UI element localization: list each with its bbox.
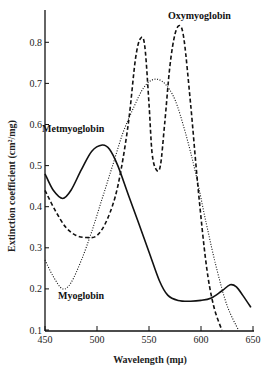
axes <box>45 10 254 331</box>
x-tick-label: 600 <box>194 334 209 345</box>
series-label-metmyoglobin: Metmyoglobin <box>42 123 105 134</box>
y-tick-label: 0.4 <box>30 201 43 212</box>
series-label-myoglobin: Myoglobin <box>58 290 105 301</box>
y-tick-label: 0.8 <box>30 37 43 48</box>
spectra-chart: 0.10.20.30.40.50.60.70.8 450500550600650… <box>0 0 269 372</box>
series-label-oxymyoglobin: Oxymyoglobin <box>168 10 231 21</box>
x-tick-label: 500 <box>90 334 105 345</box>
x-axis-title: Wavelength (mμ) <box>113 354 187 366</box>
x-tick-label: 450 <box>38 334 53 345</box>
x-tick-label: 650 <box>246 334 261 345</box>
series-labels: MetmyoglobinOxymyoglobinMyoglobin <box>42 10 231 301</box>
y-tick-label: 0.5 <box>30 160 43 171</box>
series-lines <box>45 26 251 330</box>
y-tick-label: 0.3 <box>30 242 43 253</box>
y-tick-label: 0.2 <box>30 283 43 294</box>
y-tick-label: 0.7 <box>30 78 43 89</box>
x-tick-label: 550 <box>142 334 157 345</box>
y-tick-label: 0.6 <box>30 119 43 130</box>
x-ticks: 450500550600650 <box>38 326 261 345</box>
y-ticks: 0.10.20.30.40.50.60.70.8 <box>30 37 50 336</box>
y-axis-title: Extinction coefficient (cm²/mg) <box>6 120 18 252</box>
series-line-oxymyoglobin <box>45 26 222 330</box>
series-line-metmyoglobin <box>45 145 251 307</box>
